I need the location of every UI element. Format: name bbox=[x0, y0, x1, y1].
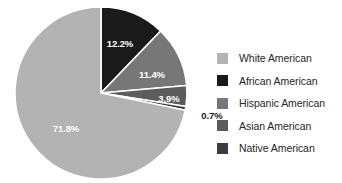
legend-swatch-african-american bbox=[217, 75, 228, 86]
legend-swatch-hispanic-american bbox=[217, 98, 228, 109]
label-white-american: 71.8% bbox=[53, 123, 80, 134]
legend-item-hispanic-american[interactable]: Hispanic American bbox=[217, 92, 342, 115]
legend-swatch-native-american bbox=[217, 143, 228, 154]
legend-label: Native American bbox=[239, 143, 315, 154]
label-african-american: 12.2% bbox=[107, 38, 134, 49]
chart-legend: White AmericanAfrican AmericanHispanic A… bbox=[217, 47, 342, 160]
legend-swatch-asian-american bbox=[217, 120, 228, 131]
label-hispanic-american: 11.4% bbox=[139, 69, 166, 80]
legend-label: White American bbox=[239, 53, 312, 64]
legend-label: African American bbox=[239, 76, 318, 87]
legend-label: Hispanic American bbox=[239, 98, 325, 109]
legend-item-african-american[interactable]: African American bbox=[217, 70, 342, 93]
label-asian-american: 3.9% bbox=[158, 93, 180, 104]
legend-label: Asian American bbox=[239, 121, 311, 132]
legend-item-white-american[interactable]: White American bbox=[217, 47, 342, 70]
pie-chart-figure: 12.2%11.4%3.9%0.7%71.8% White AmericanAf… bbox=[0, 0, 342, 183]
legend-swatch-white-american bbox=[217, 53, 228, 64]
legend-item-native-american[interactable]: Native American bbox=[217, 137, 342, 160]
legend-item-asian-american[interactable]: Asian American bbox=[217, 115, 342, 138]
